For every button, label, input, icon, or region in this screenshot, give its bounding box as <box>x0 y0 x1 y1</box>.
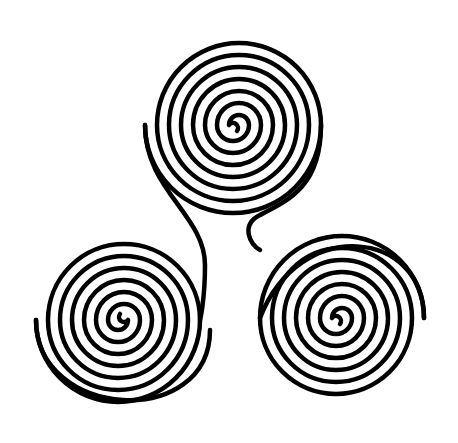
connector-top-right <box>248 125 321 250</box>
top-spiral-icon <box>145 43 321 213</box>
triskelion-figure <box>0 0 458 443</box>
